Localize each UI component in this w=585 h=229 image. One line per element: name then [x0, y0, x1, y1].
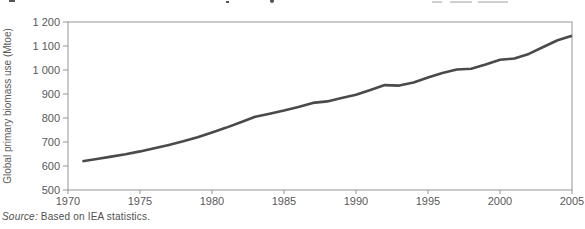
x-tick-label: 1985: [272, 195, 296, 207]
biomass-line-chart: Global primary biomass use (Mtoe) 1 2001…: [0, 0, 585, 210]
x-tick-label: 1970: [56, 195, 80, 207]
y-tick-label: 900: [42, 88, 60, 100]
x-tick-label: 2005: [560, 195, 584, 207]
biomass-series-line: [82, 36, 572, 162]
source-note-text: Based on IEA statistics.: [41, 211, 150, 222]
y-tick-label: 1 000: [32, 64, 60, 76]
clipped-title-fragment: [226, 1, 229, 3]
y-tick-label: 700: [42, 136, 60, 148]
source-note-prefix: Source:: [2, 211, 38, 222]
plot-border: [68, 22, 572, 190]
x-tick-label: 1975: [128, 195, 152, 207]
clipped-title-fragment: [9, 0, 15, 2]
y-tick-label: 500: [42, 184, 60, 196]
clipped-title-fragment: [450, 1, 472, 3]
x-tick-label: 1995: [416, 195, 440, 207]
x-tick-label: 2000: [488, 195, 512, 207]
biomass-use-figure: Global primary biomass use (Mtoe) 1 2001…: [0, 0, 585, 229]
y-tick-label: 1 100: [32, 40, 60, 52]
y-axis-title: Global primary biomass use (Mtoe): [2, 28, 13, 184]
clipped-title-fragment: [432, 1, 442, 3]
y-tick-label: 800: [42, 112, 60, 124]
y-tick-label: 1 200: [32, 16, 60, 28]
source-note: Source: Based on IEA statistics.: [2, 211, 150, 222]
x-tick-label: 1990: [344, 195, 368, 207]
y-tick-label: 600: [42, 160, 60, 172]
x-tick-label: 1980: [200, 195, 224, 207]
clipped-title-fragment: [478, 1, 508, 3]
